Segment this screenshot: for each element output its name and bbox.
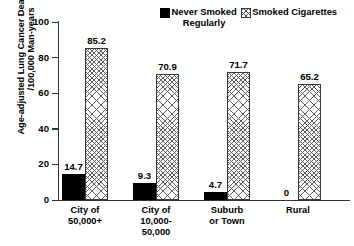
bar-value-label-1-2: 71.7	[221, 59, 256, 70]
y-tick-label-100: 100	[20, 16, 49, 27]
category-label-3-line-0: Rural	[265, 205, 331, 216]
category-label-0-line-0: City of	[52, 205, 118, 216]
category-label-1-line-0: City of	[123, 205, 189, 216]
category-label-2-line-0: Suburb	[194, 205, 260, 216]
y-tick-100	[52, 22, 58, 23]
y-tick-label-60: 60	[20, 87, 49, 98]
bar-0-0	[62, 174, 85, 200]
y-tick-0	[52, 200, 58, 201]
y-tick-label-0: 0	[20, 194, 49, 205]
y-tick-60	[52, 93, 58, 94]
bar-1-0	[85, 48, 108, 200]
bar-0-2	[204, 192, 227, 200]
y-tick-label-20: 20	[20, 158, 49, 169]
y-tick-40	[52, 128, 58, 129]
bar-1-2	[227, 72, 250, 200]
category-label-3: Rural	[265, 205, 331, 216]
bar-value-label-1-0: 85.2	[79, 35, 114, 46]
category-label-0-line-1: 50,000+	[52, 216, 118, 227]
bar-1-1	[156, 74, 179, 200]
legend-swatch-hatch-icon	[241, 8, 251, 18]
bar-1-3	[298, 84, 321, 200]
legend-item-never-smoked: Never Smoked Regularly	[160, 7, 237, 28]
chart-legend: Never Smoked Regularly Smoked Cigarettes	[160, 7, 352, 28]
legend-label-smoked-cigarettes: Smoked Cigarettes	[252, 7, 337, 18]
x-axis-line	[58, 200, 350, 201]
bar-value-label-1-3: 65.2	[292, 71, 327, 82]
y-tick-80	[52, 57, 58, 58]
legend-item-smoked-cigarettes: Smoked Cigarettes	[241, 7, 337, 18]
y-axis-line	[58, 21, 59, 201]
bar-value-label-1-1: 70.9	[150, 61, 185, 72]
legend-label-never-smoked-line1: Never Smoked	[172, 6, 237, 17]
legend-swatch-solid-icon	[160, 8, 170, 18]
category-label-1-line-1: 10,000-	[123, 216, 189, 227]
category-label-1-line-2: 50,000	[123, 227, 189, 238]
category-label-1: City of10,000-50,000	[123, 205, 189, 238]
y-tick-label-80: 80	[20, 52, 49, 63]
legend-label-never-smoked-line2: Regularly	[172, 18, 237, 29]
category-label-2-line-1: or Town	[194, 216, 260, 227]
category-label-0: City of50,000+	[52, 205, 118, 227]
bar-chart: Age-adjusted Lung Cancer Death Rates /10…	[0, 0, 354, 246]
bar-0-1	[133, 183, 156, 200]
y-tick-label-40: 40	[20, 123, 49, 134]
legend-label-never-smoked: Never Smoked Regularly	[172, 7, 237, 28]
category-label-2: Suburbor Town	[194, 205, 260, 227]
